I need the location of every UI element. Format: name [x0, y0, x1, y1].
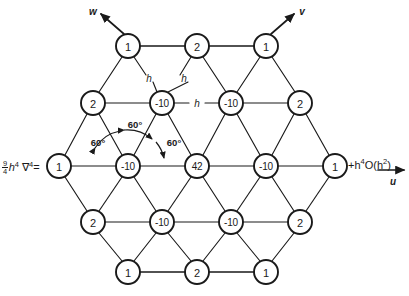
edge-diagonal — [168, 114, 191, 155]
h-label: h — [194, 98, 200, 109]
stencil-node[interactable]: -10 — [254, 154, 278, 178]
node-value: -10 — [155, 217, 169, 228]
node-value: -10 — [259, 161, 273, 172]
edge-diagonal — [99, 233, 122, 261]
stencil-node[interactable]: 2 — [185, 260, 209, 284]
angle-arc-top — [124, 130, 152, 139]
edge-diagonal — [203, 233, 225, 261]
v-axis-label: v — [299, 6, 306, 17]
node-value: 1 — [56, 161, 62, 173]
edge-diagonal — [272, 233, 294, 261]
node-value: -10 — [224, 98, 238, 109]
u-axis-label: u — [390, 177, 396, 187]
stencil-node[interactable]: 1 — [254, 34, 278, 58]
stencil-node[interactable]: 1 — [323, 154, 347, 178]
h-label: h — [181, 73, 187, 84]
stencil-node[interactable]: 2 — [81, 210, 105, 234]
w-axis-arrow — [101, 14, 124, 34]
stencil-node[interactable]: -10 — [150, 210, 174, 234]
axis-w: w — [89, 6, 124, 35]
stencil-nodes: 1 2 1 2 -10 -10 — [47, 34, 347, 284]
stencil-node[interactable]: -10 — [150, 91, 174, 115]
edge-diagonal — [237, 233, 260, 261]
stencil-node[interactable]: -10 — [219, 210, 243, 234]
edge-diagonal — [153, 82, 157, 92]
edge-diagonal — [99, 177, 122, 211]
node-value: 1 — [263, 41, 269, 53]
angle-label-left: 60° — [91, 137, 106, 148]
node-value: 1 — [125, 41, 131, 53]
stencil-diagram: w v h h h 60° 60° 60° — [0, 0, 409, 296]
node-value: 1 — [263, 267, 269, 279]
node-value: 2 — [194, 267, 200, 279]
edge-diagonal — [134, 177, 156, 211]
edge-diagonal — [306, 177, 329, 211]
edge-diagonal — [272, 177, 294, 211]
edge-diagonal — [168, 82, 188, 92]
fraction-denominator: 4 — [2, 168, 8, 176]
stencil-node[interactable]: -10 — [116, 154, 140, 178]
equals-sign: = — [33, 161, 39, 173]
node-value: -10 — [224, 217, 238, 228]
v-axis-arrow — [271, 14, 294, 34]
order-term: O(h — [365, 159, 383, 171]
edge-diagonal — [237, 57, 260, 92]
edge-diagonal — [203, 177, 225, 211]
w-axis-label: w — [89, 6, 98, 17]
axis-v: v — [271, 6, 306, 35]
edge-diagonal — [272, 114, 294, 155]
node-value: -10 — [121, 161, 135, 172]
node-value: -10 — [155, 98, 169, 109]
nabla-symbol: ∇ — [22, 161, 29, 173]
node-value: 1 — [332, 161, 338, 173]
stencil-node[interactable]: 1 — [254, 260, 278, 284]
stencil-figure: w v h h h 60° 60° 60° — [0, 0, 409, 296]
node-value: 2 — [90, 217, 96, 229]
edge-diagonal — [99, 57, 122, 92]
stencil-node[interactable]: 2 — [288, 210, 312, 234]
rhs-prefix: +h — [348, 159, 361, 171]
stencil-node[interactable]: 2 — [288, 91, 312, 115]
stencil-node[interactable]: 1 — [116, 260, 140, 284]
edge-diagonal — [203, 57, 226, 92]
edge-diagonal — [134, 57, 146, 75]
edge-diagonal — [306, 114, 329, 155]
edge-diagonal — [237, 114, 260, 155]
stencil-node-center[interactable]: 42 — [185, 154, 209, 178]
h-label: h — [146, 73, 152, 84]
angle-label-right: 60° — [167, 137, 182, 148]
fraction-nine-fourths: 94 — [2, 160, 8, 177]
edge-diagonal — [237, 177, 260, 211]
stencil-node[interactable]: 2 — [185, 34, 209, 58]
edge-diagonal — [168, 233, 191, 261]
order-close-paren: ) — [387, 159, 391, 171]
node-value: 1 — [125, 267, 131, 279]
stencil-node[interactable]: -10 — [219, 91, 243, 115]
edge-diagonal — [65, 114, 87, 155]
h-exponent: 4 — [15, 160, 19, 169]
edge-diagonal — [203, 114, 225, 155]
edge-diagonal — [134, 233, 156, 261]
node-value: 42 — [192, 161, 203, 172]
node-value: 2 — [90, 98, 96, 110]
stencil-node[interactable]: 1 — [47, 154, 71, 178]
lhs-equation: 94h4 ∇4= — [2, 160, 40, 177]
node-value: 2 — [297, 217, 303, 229]
node-value: 2 — [194, 41, 200, 53]
stencil-node[interactable]: 1 — [116, 34, 140, 58]
node-value: 2 — [297, 98, 303, 110]
stencil-node[interactable]: 2 — [81, 91, 105, 115]
angle-arc-right — [156, 142, 164, 158]
edge-diagonal — [168, 177, 191, 211]
edge-diagonal — [272, 57, 295, 92]
angle-label-top: 60° — [128, 119, 143, 130]
edge-diagonal — [65, 177, 87, 211]
rhs-equation: +h4O(h2) — [348, 160, 391, 171]
